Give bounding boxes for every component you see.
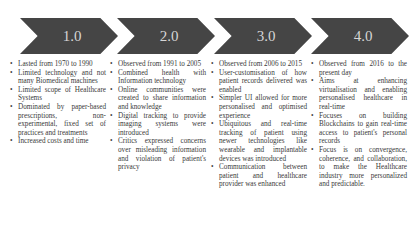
phase-column-4: Observed from 2016 to the present day Ai… bbox=[309, 60, 407, 189]
phase-chevron-3: 3.0 bbox=[214, 18, 312, 54]
bullet-item: User-customisation of how patient record… bbox=[219, 69, 307, 95]
phase-label: 1.0 bbox=[57, 28, 82, 45]
bullet-list: Observed from 2006 to 2015 User-customis… bbox=[209, 60, 307, 189]
bullet-item: Observed from 2016 to the present day bbox=[319, 60, 407, 77]
phase-timeline: 1.0 2.0 3.0 4.0 bbox=[20, 18, 410, 54]
bullet-item: Communication between patient and health… bbox=[219, 163, 307, 189]
bullet-list: Observed from 1991 to 2005 Combined heal… bbox=[108, 60, 206, 172]
phase-column-3: Observed from 2006 to 2015 User-customis… bbox=[209, 60, 307, 189]
bullet-item: Ubiquitous and real-time tracking of pat… bbox=[219, 120, 307, 163]
phase-label: 4.0 bbox=[348, 28, 373, 45]
phase-label: 2.0 bbox=[154, 28, 179, 45]
bullet-item: Digital tracking to provide imaging syst… bbox=[118, 112, 206, 138]
bullet-list: Lasted from 1970 to 1990 Limited technol… bbox=[8, 60, 106, 146]
bullet-item: Lasted from 1970 to 1990 bbox=[18, 60, 106, 69]
phase-chevron-4: 4.0 bbox=[311, 18, 409, 54]
bullet-item: Focus is on convergence, coherence, and … bbox=[319, 146, 407, 189]
bullet-item: Limited technology and not many Biomedic… bbox=[18, 69, 106, 86]
bullet-item: Aims at enhancing virtualisation and ena… bbox=[319, 77, 407, 111]
phase-chevron-1: 1.0 bbox=[20, 18, 118, 54]
phase-column-2: Observed from 1991 to 2005 Combined heal… bbox=[108, 60, 206, 172]
bullet-item: Critics expressed concerns over misleadi… bbox=[118, 137, 206, 171]
bullet-item: Dominated by paper-based prescriptions, … bbox=[18, 103, 106, 137]
bullet-list: Observed from 2016 to the present day Ai… bbox=[309, 60, 407, 189]
bullet-item: Combined health with Information technol… bbox=[118, 69, 206, 86]
bullet-item: Increased costs and time bbox=[18, 137, 106, 146]
phase-column-1: Lasted from 1970 to 1990 Limited technol… bbox=[8, 60, 106, 146]
phase-label: 3.0 bbox=[251, 28, 276, 45]
bullet-item: Observed from 2006 to 2015 bbox=[219, 60, 307, 69]
bullet-item: Limited scope of Healthcare Systems bbox=[18, 86, 106, 103]
bullet-item: Simpler UI allowed for more personalised… bbox=[219, 94, 307, 120]
bullet-item: Observed from 1991 to 2005 bbox=[118, 60, 206, 69]
phase-chevron-2: 2.0 bbox=[117, 18, 215, 54]
bullet-item: Online communities were created to share… bbox=[118, 86, 206, 112]
bullet-item: Focuses on building Blockchains to gain … bbox=[319, 112, 407, 146]
